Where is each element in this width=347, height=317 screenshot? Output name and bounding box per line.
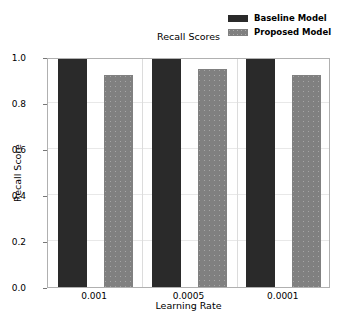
- legend-swatch-baseline-model: [228, 15, 248, 22]
- x-tick-label: 0.0001: [267, 291, 299, 301]
- x-axis-label: Learning Rate: [47, 300, 330, 311]
- gridline-horizontal: [48, 194, 329, 195]
- gridline-horizontal: [48, 148, 329, 149]
- y-tick-mark: [43, 288, 47, 289]
- x-tick-label: 0.001: [81, 291, 107, 301]
- bar-proposed-0.0001: [292, 75, 321, 287]
- y-tick-label: 0.6: [2, 145, 26, 155]
- y-tick-label: 0.0: [2, 283, 26, 293]
- y-tick-label: 1.0: [2, 53, 26, 63]
- legend-label-baseline-model: Baseline Model: [254, 13, 327, 24]
- y-tick-label: 0.8: [2, 99, 26, 109]
- bar-baseline-0.0005: [152, 58, 181, 287]
- bar-baseline-0.0001: [246, 58, 275, 287]
- y-tick-label: 0.2: [2, 237, 26, 247]
- gridline-vertical: [237, 59, 238, 287]
- plot-area: [47, 58, 330, 288]
- legend-item-baseline-model: Baseline Model: [228, 13, 344, 24]
- gridline-horizontal: [48, 240, 329, 241]
- recall-scores-bar-chart: Baseline Model Proposed Model Recall Sco…: [0, 0, 347, 317]
- gridline-horizontal: [48, 102, 329, 103]
- y-axis-label: Recall Score: [12, 58, 23, 288]
- y-tick-label: 0.4: [2, 191, 26, 201]
- x-tick-label: 0.0005: [173, 291, 205, 301]
- bar-proposed-0.0005: [198, 69, 227, 288]
- bar-baseline-0.001: [58, 58, 87, 287]
- bar-proposed-0.001: [104, 75, 133, 287]
- gridline-vertical: [142, 59, 143, 287]
- chart-title: Recall Scores: [47, 31, 330, 42]
